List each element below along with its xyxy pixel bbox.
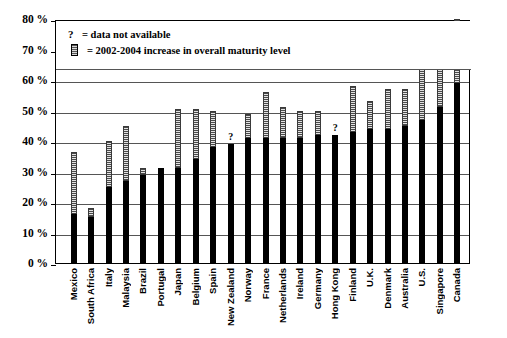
x-axis-tick-label: Brazil: [137, 268, 148, 294]
x-axis-tick-label: Norway: [242, 268, 253, 302]
y-axis-tick-label: 60 %: [0, 75, 48, 87]
bar-segment-base: [140, 175, 146, 263]
x-axis-tick-label: Spain: [207, 268, 218, 294]
x-axis-tick-label: South Africa: [85, 268, 96, 324]
y-axis-tick-mark: [51, 265, 56, 266]
bar-segment-base: [454, 83, 460, 263]
bar: [158, 168, 164, 263]
bar-segment-increase: [350, 86, 356, 132]
y-axis-tick-label: 0 %: [0, 258, 48, 270]
x-axis-tick-label: Canada: [451, 268, 462, 302]
x-axis-tick-label: Belgium: [190, 268, 201, 305]
x-axis-tick-label: Denmark: [382, 268, 393, 309]
bar-segment-increase: [175, 109, 181, 168]
bar: [402, 89, 408, 263]
bar: [367, 101, 373, 263]
x-axis-tick-label: France: [260, 268, 271, 299]
x-axis-tick-label: Netherlands: [277, 268, 288, 323]
bar: ?: [332, 135, 338, 263]
bar: [385, 89, 391, 263]
bar-segment-base: [437, 107, 443, 263]
bar: [193, 109, 199, 263]
y-axis-tick-label: 20 %: [0, 197, 48, 209]
question-mark-icon: ?: [68, 28, 82, 40]
bar-segment-increase: [297, 111, 303, 138]
bar: [315, 111, 321, 264]
data-not-available-marker: ?: [228, 132, 233, 142]
plot-area: ?? ? = data not available = 2002-2004 in…: [55, 20, 470, 264]
y-axis-tick-label: 30 %: [0, 167, 48, 179]
x-axis-tick-label: New Zealand: [225, 268, 236, 326]
bar: [297, 111, 303, 264]
bar: [263, 92, 269, 263]
bar-segment-base: [280, 138, 286, 263]
bar: [419, 62, 425, 263]
bar-segment-base: [332, 135, 338, 263]
bar-segment-base: [419, 120, 425, 263]
bar-segment-base: [315, 135, 321, 263]
bar-segment-increase: [210, 111, 216, 148]
bar-segment-increase: [140, 168, 146, 174]
x-axis-tick-label: U.S.: [416, 268, 427, 286]
x-axis-tick-label: Malaysia: [120, 268, 131, 308]
bar-segment-increase: [280, 107, 286, 138]
bar: [140, 168, 146, 263]
bar-segment-increase: [385, 89, 391, 129]
bar-segment-increase: [88, 208, 94, 217]
bar-segment-base: [297, 138, 303, 263]
legend-label-increase: = 2002-2004 increase in overall maturity…: [87, 45, 291, 56]
x-axis-tick-label: Singapore: [434, 268, 445, 314]
y-axis-tick-label: 50 %: [0, 106, 48, 118]
bar-segment-base: [210, 147, 216, 263]
bar-segment-base: [88, 217, 94, 263]
bar-segment-base: [175, 168, 181, 263]
bar-segment-increase: [245, 114, 251, 138]
bar-segment-base: [106, 187, 112, 263]
x-axis-tick-label: Ireland: [294, 268, 305, 299]
x-axis-tick-label: Japan: [172, 268, 183, 295]
bar-segment-increase: [367, 101, 373, 128]
bar-segment-base: [193, 159, 199, 263]
bar: [88, 208, 94, 263]
legend-row-increase: = 2002-2004 increase in overall maturity…: [68, 42, 471, 58]
gridline: [56, 82, 469, 83]
x-axis-tick-label: Italy: [103, 268, 114, 287]
y-axis-tick-label: 40 %: [0, 136, 48, 148]
bar-segment-base: [245, 138, 251, 263]
bar: [350, 86, 356, 263]
bar-segment-increase: [193, 109, 199, 159]
bar: [245, 114, 251, 263]
bar-segment-base: [367, 129, 373, 263]
bar-segment-base: [385, 129, 391, 263]
bar: [123, 126, 129, 263]
bar: [280, 107, 286, 263]
bar-segment-base: [350, 132, 356, 263]
bar-segment-increase: [419, 62, 425, 120]
x-axis-tick-label: U.K.: [364, 268, 375, 287]
y-axis-tick-label: 10 %: [0, 228, 48, 240]
data-not-available-marker: ?: [333, 123, 338, 133]
x-axis-tick-label: Australia: [399, 268, 410, 309]
x-axis-tick-label: Finland: [347, 268, 358, 302]
legend-label-question: = data not available: [82, 29, 171, 40]
bar-segment-base: [158, 168, 164, 263]
bar-segment-base: [228, 144, 234, 263]
y-axis-tick-label: 80 %: [0, 14, 48, 26]
bar-segment-increase: [123, 126, 129, 181]
bar: [71, 152, 77, 263]
bar-segment-base: [402, 126, 408, 263]
bar-segment-base: [263, 138, 269, 263]
bar-segment-increase: [106, 141, 112, 187]
bar-segment-increase: [71, 152, 77, 215]
bar-segment-increase: [315, 111, 321, 135]
hatched-swatch-icon: [71, 44, 78, 56]
chart-legend: ? = data not available = 2002-2004 incre…: [56, 21, 471, 70]
chart-figure: 0 %10 %20 %30 %40 %50 %60 %70 %80 % ?? ?…: [0, 0, 507, 338]
bar: [210, 111, 216, 264]
bar: [106, 141, 112, 263]
bar: ?: [228, 144, 234, 263]
bar-segment-increase: [402, 89, 408, 126]
bar-segment-base: [123, 181, 129, 263]
bar: [437, 62, 443, 263]
bar-segment-base: [71, 214, 77, 263]
